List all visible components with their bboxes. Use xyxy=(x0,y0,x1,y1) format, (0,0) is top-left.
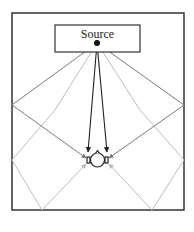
direct-path-right xyxy=(97,43,107,152)
right-ear-icon xyxy=(105,157,108,163)
path-left-light xyxy=(12,43,97,210)
listener-head-icon xyxy=(87,151,108,168)
path-left-wall xyxy=(12,43,97,158)
left-ear-icon xyxy=(87,157,90,163)
source-label: Source xyxy=(81,27,114,41)
second-order-reflections xyxy=(12,43,184,210)
source-point-icon xyxy=(94,40,100,46)
direct-path-left xyxy=(88,43,97,152)
head-icon xyxy=(91,153,105,167)
nose-icon xyxy=(96,151,100,154)
direct-paths xyxy=(88,43,107,152)
first-order-reflections xyxy=(12,43,184,158)
path-right-light xyxy=(97,43,184,210)
source-node: Source xyxy=(55,25,140,52)
room-acoustics-diagram: Source xyxy=(0,0,194,232)
path-right-wall xyxy=(97,43,184,158)
